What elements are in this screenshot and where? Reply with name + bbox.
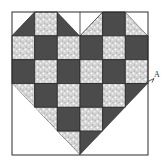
- quilt-patch: [80, 84, 103, 108]
- quilt-patch: [125, 107, 148, 131]
- quilt-patch: [80, 36, 103, 60]
- quilt-patch: [35, 60, 58, 84]
- quilt-patch: [35, 84, 58, 108]
- quilt-patch: [103, 60, 126, 84]
- quilt-patch: [125, 36, 148, 60]
- heart-quilt-diagram: [0, 0, 168, 165]
- quilt-patch: [57, 60, 80, 84]
- quilt-patch: [35, 131, 58, 155]
- quilt-patch: [103, 131, 126, 155]
- quilt-patch: [103, 12, 126, 36]
- quilt-patch: [57, 36, 80, 60]
- quilt-patch: [12, 131, 35, 155]
- quilt-patch: [35, 36, 58, 60]
- quilt-patch: [125, 60, 148, 84]
- quilt-patch: [57, 84, 80, 108]
- quilt-patch: [103, 84, 126, 108]
- quilt-patch: [12, 60, 35, 84]
- quilt-patch: [80, 107, 103, 131]
- piece-label-a: A: [154, 70, 160, 79]
- quilt-patch: [35, 12, 58, 36]
- quilt-patch: [103, 36, 126, 60]
- quilt-patch: [12, 107, 35, 131]
- quilt-patch: [80, 60, 103, 84]
- quilt-patch: [125, 131, 148, 155]
- quilt-patch: [57, 107, 80, 131]
- quilt-patch: [12, 36, 35, 60]
